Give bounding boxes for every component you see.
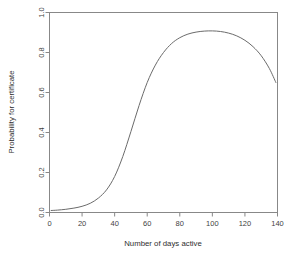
y-tick-label-1.0: 1.0 (37, 7, 46, 17)
y-tick-label-0.2: 0.2 (37, 167, 46, 177)
x-tick-label-80: 80 (176, 219, 184, 228)
x-tick-label-20: 20 (78, 219, 86, 228)
y-tick-label-0.8: 0.8 (37, 47, 46, 57)
y-tick-label-0.0: 0.0 (37, 207, 46, 217)
x-axis-title: Number of days active (124, 239, 202, 248)
x-axis-tick-labels: 020406080100120140 (47, 219, 283, 228)
plot-frame (50, 13, 278, 213)
y-axis-tick-labels: 0.00.20.40.60.81.0 (37, 7, 46, 217)
probability-curve (51, 31, 276, 211)
y-tick-label-0.6: 0.6 (37, 87, 46, 97)
x-tick-label-0: 0 (47, 219, 51, 228)
y-axis-ticks (46, 13, 50, 213)
chart-figure: 020406080100120140 0.00.20.40.60.81.0 Nu… (0, 0, 292, 261)
x-tick-label-100: 100 (206, 219, 219, 228)
x-tick-label-120: 120 (239, 219, 252, 228)
chart-canvas: 020406080100120140 0.00.20.40.60.81.0 Nu… (0, 0, 292, 261)
x-tick-label-140: 140 (271, 219, 284, 228)
y-axis-title: Probability for certificate (7, 70, 16, 153)
y-tick-label-0.4: 0.4 (37, 127, 46, 137)
x-axis-ticks (50, 213, 278, 217)
x-tick-label-40: 40 (110, 219, 118, 228)
x-tick-label-60: 60 (143, 219, 151, 228)
